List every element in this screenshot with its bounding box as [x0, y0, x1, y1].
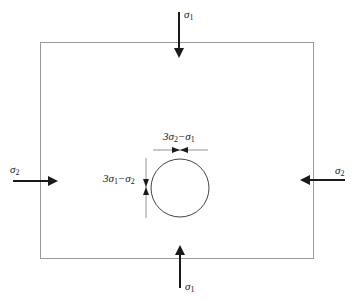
right-load-label: σ2: [335, 164, 344, 178]
top-load-arrow-icon: [174, 12, 184, 58]
left-load-label: σ2: [10, 163, 19, 177]
circular-hole: [151, 159, 209, 217]
side-hole-dimension-icon: [143, 158, 149, 218]
bottom-load-label: σ1: [185, 280, 194, 294]
top-hole-stress-label: 3σ2−σ1: [163, 130, 195, 144]
top-load-label: σ1: [184, 8, 193, 22]
bottom-load-arrow-icon: [175, 245, 185, 288]
left-load-arrow-icon: [13, 176, 58, 186]
diagram-canvas: [0, 0, 355, 300]
side-hole-stress-label: 3σ1−σ2: [103, 172, 135, 186]
top-hole-dimension-icon: [153, 147, 208, 153]
